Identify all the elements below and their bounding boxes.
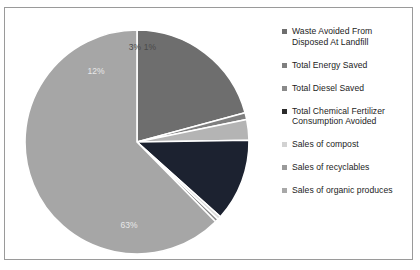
plot-area: 1%3%12%63% Waste Avoided From Disposed A… xyxy=(5,8,412,259)
legend-item-label: Total Energy Saved xyxy=(292,60,367,71)
legend-item-label: Sales of recyclables xyxy=(292,162,369,173)
legend-item[interactable]: Sales of organic produces xyxy=(282,185,410,196)
legend-swatch-icon xyxy=(282,188,287,193)
legend-swatch-icon xyxy=(282,165,287,170)
legend-item-label: Sales of organic produces xyxy=(292,185,393,196)
legend-swatch-icon xyxy=(282,63,287,68)
pie-slice-value-label: 1% xyxy=(144,42,157,52)
legend-swatch-icon xyxy=(282,109,287,114)
legend-item-label: Total Chemical Fertilizer Consumption Av… xyxy=(292,106,410,127)
pie-slice-value-label: 3% xyxy=(129,42,142,52)
legend-swatch-icon xyxy=(282,86,287,91)
legend-item[interactable]: Total Energy Saved xyxy=(282,60,410,71)
legend-item-label: Sales of compost xyxy=(292,139,359,150)
legend-swatch-icon xyxy=(282,142,287,147)
pie-slice-value-label: 12% xyxy=(87,66,104,76)
legend-item-label: Total Diesel Saved xyxy=(292,83,364,94)
chart-frame: 1%3%12%63% Waste Avoided From Disposed A… xyxy=(4,7,413,260)
pie-chart: 1%3%12%63% xyxy=(19,14,251,254)
legend-item[interactable]: Total Chemical Fertilizer Consumption Av… xyxy=(282,106,410,127)
pie-svg: 1%3%12%63% xyxy=(19,14,251,254)
legend-item[interactable]: Total Diesel Saved xyxy=(282,83,410,94)
legend-item-label: Waste Avoided From Disposed At Landfill xyxy=(292,26,410,47)
pie-slice-value-label: 63% xyxy=(120,220,137,230)
legend-swatch-icon xyxy=(282,29,287,34)
legend-item[interactable]: Waste Avoided From Disposed At Landfill xyxy=(282,26,410,47)
legend-item[interactable]: Sales of recyclables xyxy=(282,162,410,173)
legend-item[interactable]: Sales of compost xyxy=(282,139,410,150)
chart-legend: Waste Avoided From Disposed At LandfillT… xyxy=(282,26,410,208)
